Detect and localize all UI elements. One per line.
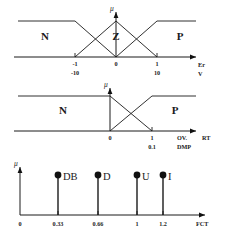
middle-y-axis-label: μ — [104, 80, 108, 89]
fuzzy-membership-figure: μ N Z P -1 0 1 -10 10 Er V — [0, 0, 238, 239]
middle-tick-label-point-one: 0.1 — [148, 143, 156, 150]
middle-set-label-N: N — [59, 104, 67, 116]
bottom-stem-dot-U — [134, 172, 141, 179]
middle-x-axis-arrowhead — [190, 129, 196, 134]
top-set-label-Z: Z — [112, 30, 119, 42]
bottom-tick-label-066: 0.66 — [93, 220, 104, 227]
top-tick-label-zero: 0 — [114, 60, 117, 67]
middle-x-axis-label-dmp: DMP — [177, 143, 191, 150]
error-membership-chart: μ N Z P -1 0 1 -10 10 Er V — [14, 4, 205, 77]
bottom-stem-dot-D — [95, 172, 102, 179]
top-set-label-P: P — [177, 30, 184, 42]
bottom-y-axis-arrowhead — [18, 167, 23, 173]
top-tick-label-plus1: 1 — [155, 60, 158, 67]
top-x-axis-arrowhead — [190, 55, 196, 60]
bottom-tick-label-12: 1.2 — [159, 220, 167, 227]
bottom-stem-dot-DB — [55, 172, 62, 179]
top-tick-label-plus10: 10 — [154, 69, 160, 76]
bottom-stem-label-DB: DB — [63, 171, 78, 182]
top-series-N — [18, 21, 116, 57]
top-x-axis-label-er: Er — [198, 61, 205, 68]
middle-tick-label-zero: 0 — [108, 134, 111, 141]
middle-set-label-P: P — [172, 104, 179, 116]
bottom-stem-label-I: I — [168, 171, 172, 182]
middle-series-P — [110, 96, 196, 131]
middle-tick-label-one: 1 — [150, 134, 153, 141]
fct-singleton-chart: μ DB D U I 0 0.33 0.66 — [14, 159, 209, 227]
top-series-P — [116, 21, 196, 57]
top-tick-label-minus10: -10 — [71, 69, 79, 76]
bottom-stem-label-U: U — [142, 171, 150, 182]
bottom-tick-label-zero: 0 — [18, 220, 21, 227]
bottom-stem-dot-I — [160, 172, 167, 179]
top-y-axis-arrowhead — [114, 12, 119, 18]
bottom-x-axis-arrowhead — [199, 213, 205, 218]
bottom-tick-label-1: 1 — [135, 220, 138, 227]
bottom-y-axis-label: μ — [14, 159, 18, 168]
top-y-axis-label: μ — [110, 4, 114, 13]
bottom-stem-label-D: D — [103, 171, 111, 182]
top-x-axis-label-v: V — [198, 70, 203, 77]
bottom-x-axis-label-fct: FCT — [196, 220, 209, 227]
middle-y-axis-arrowhead — [108, 88, 113, 94]
top-tick-label-minus1: -1 — [72, 60, 77, 67]
top-set-label-N: N — [41, 30, 49, 42]
middle-x-axis-label-ov: OV. — [177, 134, 187, 141]
bottom-tick-label-033: 0.33 — [53, 220, 64, 227]
overshoot-membership-chart: μ N P 0 1 0.1 OV. RT DMP — [14, 80, 211, 150]
figure-canvas: μ N Z P -1 0 1 -10 10 Er V — [0, 0, 238, 239]
middle-x-axis-label-rt: RT — [202, 134, 211, 141]
middle-series-N — [18, 96, 152, 131]
